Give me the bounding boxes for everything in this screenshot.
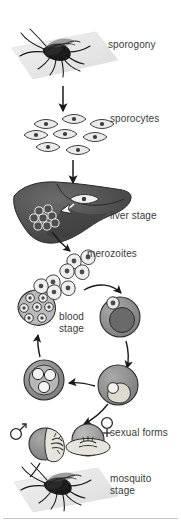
- label-sporogony: sporogony: [108, 39, 156, 51]
- label-liver-stage: liver stage: [110, 210, 157, 222]
- male-gametocyte-icon: [29, 428, 64, 462]
- trophozoite-cell-icon: [98, 365, 138, 405]
- arrow-ring-to-trophozoite: [126, 341, 128, 368]
- schizont-cell-icon: [24, 360, 64, 400]
- merozoite-icon: [75, 265, 89, 280]
- released-merozoite-icon: [47, 285, 61, 300]
- mosquito-stage-group: [14, 463, 118, 512]
- merozoite-icon: [61, 281, 75, 296]
- arrow-trophozoite-to-schizont: [69, 383, 95, 386]
- sporogony-group: [12, 29, 118, 79]
- rupturing-schizont-icon: [18, 279, 61, 325]
- bottom-divider: [3, 518, 178, 519]
- sporozoite-icon: [66, 146, 90, 155]
- sporozoite-icon: [24, 131, 48, 140]
- blood-stage-group: [18, 279, 140, 424]
- label-sexual-forms: sexual forms: [110, 427, 168, 439]
- label-mosquito-stage: mosquito stage: [110, 473, 151, 496]
- sporozoite-icon: [53, 130, 77, 139]
- sporozoite-icon: [36, 143, 60, 152]
- sporozoite-icon: [83, 133, 107, 142]
- malaria-life-cycle-diagram: [0, 0, 181, 530]
- arrow-merozoites-to-ring: [84, 285, 121, 293]
- male-symbol-icon: [11, 424, 26, 439]
- invading-sporozoite-icon: [70, 195, 99, 204]
- sporozoite-icon: [62, 115, 86, 124]
- released-merozoite-icon: [34, 279, 48, 294]
- merozoite-icon: [60, 264, 74, 279]
- sporocytes-group: [24, 115, 114, 155]
- label-sporocytes: sporocytes: [110, 113, 159, 125]
- arrow-blood-to-sexual: [84, 404, 108, 424]
- arrow-schizont-to-rupture: [38, 335, 40, 357]
- label-merozoites: merozoites: [87, 248, 137, 260]
- label-blood-stage: blood stage: [59, 311, 84, 334]
- ring-stage-cell-icon: [100, 297, 140, 337]
- female-gametocyte-icon: [66, 424, 110, 456]
- sporozoite-icon: [34, 120, 58, 129]
